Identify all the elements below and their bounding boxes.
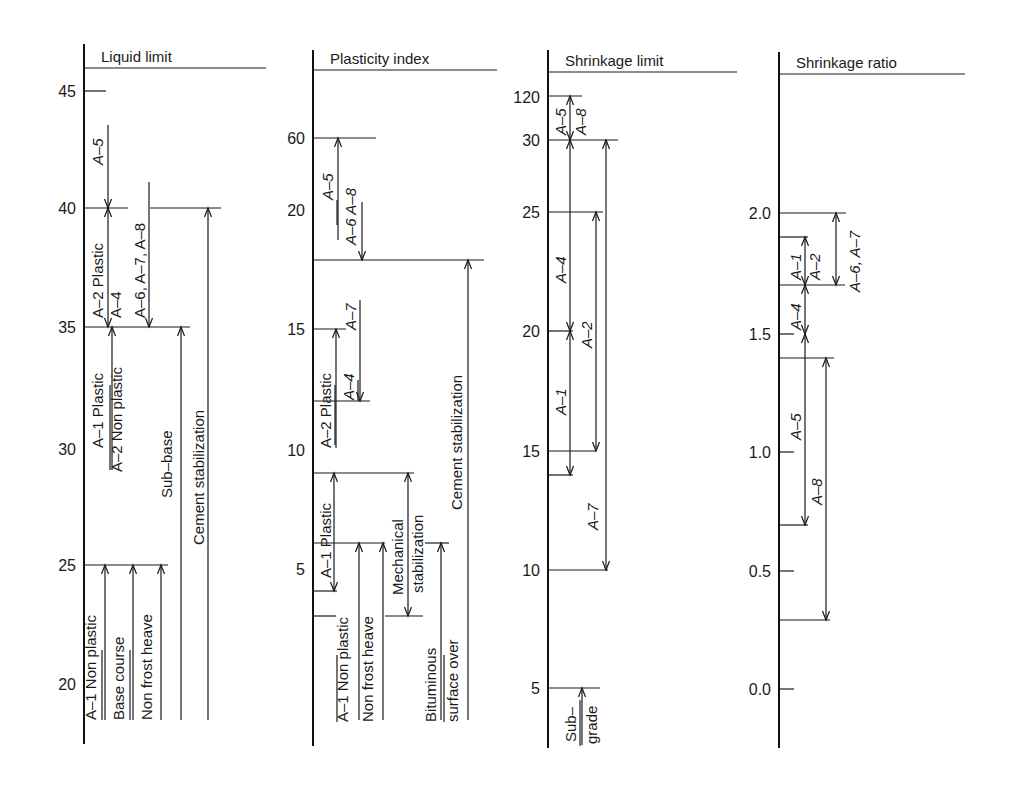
tick-label: 1.5 [749,326,771,343]
range-label: A–1 Plastic [89,372,106,448]
range-label: A–8 [572,108,589,136]
range-label: A–5 [552,108,569,136]
range-label: A–2 Non plastic [108,366,125,472]
range-label: A–5 [787,413,804,441]
panel-plasticity-index: Plasticity index602015105A–5A–6 A–8A–7A–… [287,50,497,746]
range-label: A–2 Plastic [317,372,334,448]
tick-label: 2.0 [749,205,771,222]
range-label: A–4 [340,373,357,401]
range-label: A–6 A–8 [342,187,359,246]
tick-label: 15 [287,321,305,338]
tick-label: 35 [58,319,76,336]
range-label: Mechanical [389,519,406,595]
range-label: Non frost heave [138,614,155,720]
tick-label: 10 [287,442,305,459]
range-label: A–2 [806,253,823,281]
range-label: A–1 Plastic [317,502,334,578]
range-label: A–2 [578,321,595,349]
tick-label: 120 [513,89,540,106]
range-label: Sub–base [158,430,175,498]
soil-classification-diagram: Liquid limit454035302520A–5A–2 PlasticA–… [0,0,1014,796]
panel-shrinkage-ratio: Shrinkage ratio2.01.51.00.50.0A–1A–2A–6,… [749,52,965,748]
range-label: A–4 [107,291,124,318]
range-label: Bituminous [422,648,439,722]
tick-label: 1.0 [749,444,771,461]
tick-label: 45 [58,83,76,100]
tick-label: 5 [531,680,540,697]
tick-label: 25 [522,204,540,221]
tick-label: 30 [58,441,76,458]
tick-label: 60 [287,130,305,147]
range-label: Non frost heave [359,616,376,722]
range-label: A–5 [319,173,336,201]
panel-shrinkage-limit: Shrinkage limit12030252015105A–5A–8A–4A–… [513,50,737,748]
tick-label: 40 [58,200,76,217]
tick-label: 5 [296,561,305,578]
tick-label: 25 [58,557,76,574]
tick-label: 15 [522,443,540,460]
range-label: grade [583,706,600,744]
range-label: A–6, A–7, A–8 [131,223,148,318]
panel-title: Shrinkage ratio [796,54,897,71]
tick-label: 20 [58,676,76,693]
range-label: A–1 Non plastic [82,614,99,720]
panel-title: Liquid limit [101,48,173,65]
range-label: A–6, A–7 [846,230,863,293]
range-label: A–2 Plastic [89,242,106,318]
tick-label: 20 [522,323,540,340]
range-label: stabilization [409,515,426,593]
panel-title: Plasticity index [330,50,430,67]
range-label: A–7 [584,503,601,531]
tick-label: 20 [287,202,305,219]
range-label: A–1 [787,253,804,281]
range-label: Cement stabilization [448,375,465,510]
range-label: Base course [110,637,127,720]
tick-label: 10 [522,562,540,579]
range-label: A–4 [787,303,804,331]
range-label: surface over [444,639,461,722]
tick-label: 0.5 [749,563,771,580]
range-label: A–5 [89,138,106,166]
panel-liquid-limit: Liquid limit454035302520A–5A–2 PlasticA–… [58,44,266,744]
range-label: A–8 [808,478,825,506]
diagram-canvas: Liquid limit454035302520A–5A–2 PlasticA–… [0,0,1014,796]
range-label: A–7 [342,303,359,331]
range-label: A–1 [552,388,569,416]
tick-label: 30 [522,132,540,149]
tick-label: 0.0 [749,681,771,698]
range-label: A–4 [552,256,569,284]
panel-title: Shrinkage limit [565,52,664,69]
range-label: Cement stabilization [190,410,207,545]
range-label: Sub– [562,706,579,742]
range-label: A–1 Non plastic [334,616,351,722]
